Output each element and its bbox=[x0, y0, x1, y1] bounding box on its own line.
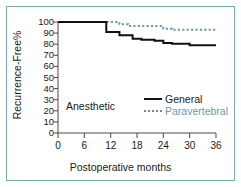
dotted-line-icon bbox=[144, 110, 162, 112]
x-tick-label: 24 bbox=[158, 141, 169, 151]
x-tick-label: 0 bbox=[55, 141, 61, 151]
y-axis-title-wrapper: Recurrence-Free% bbox=[9, 12, 25, 138]
x-tick-label: 12 bbox=[105, 141, 116, 151]
legend-label-paravertebral: Paravertebral bbox=[165, 105, 228, 117]
legend-item-general: General bbox=[144, 93, 202, 105]
x-tick-label: 6 bbox=[82, 141, 88, 151]
chart-legend: Anesthetic General Paravertebral bbox=[66, 92, 226, 122]
solid-line-icon bbox=[144, 98, 162, 100]
x-axis-title: Postoperative months bbox=[0, 161, 241, 173]
y-axis-title: Recurrence-Free% bbox=[11, 31, 23, 120]
x-tick-label: 36 bbox=[210, 141, 221, 151]
legend-group-label: Anesthetic bbox=[66, 100, 115, 112]
legend-item-paravertebral: Paravertebral bbox=[144, 105, 228, 117]
x-tick-label: 18 bbox=[131, 141, 142, 151]
figure-container: 100 90 80 70 60 50 40 30 20 10 0 0 6 12 … bbox=[0, 0, 241, 187]
x-tick-label: 30 bbox=[184, 141, 195, 151]
legend-label-general: General bbox=[165, 93, 202, 105]
